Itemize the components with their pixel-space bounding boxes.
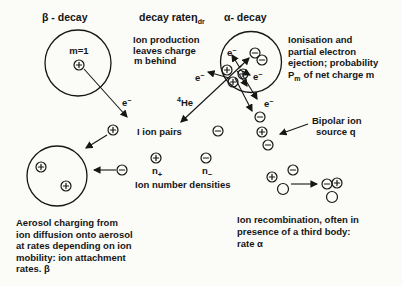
alpha-decay-header: α- decay (224, 11, 267, 23)
recombination-note-line2: presence of a third body: (237, 226, 351, 237)
positive-ion-icon (267, 172, 277, 182)
decay-ionization-diagram: β - decay decay rate ηdr α- decay m=1 e−… (0, 0, 402, 286)
ion-production-note-line1: Ion production (133, 34, 200, 45)
beta-decay-header: β - decay (42, 11, 88, 23)
alpha-nucleus-circle (221, 32, 282, 93)
ion-number-densities-label: Ion number densities (135, 179, 231, 190)
helium-4-label: 4He (177, 96, 193, 108)
electron-label: e− (253, 71, 262, 83)
aerosol-note-line2: ion diffusion onto aerosol (16, 229, 133, 240)
bipolar-ion-source-label-line2: source q (316, 126, 356, 137)
bipolar-source-pointer-arrow (280, 124, 308, 134)
charge-state-label: m=1 (69, 45, 89, 56)
positive-ion-icon (36, 162, 46, 172)
negative-ion-icon (263, 140, 273, 150)
recombination-note-line3: rate α (237, 238, 263, 249)
negative-ion-icon (201, 153, 211, 163)
ion-production-note-line3: m behind (134, 55, 176, 66)
ionisation-note-line3: ejection; probability (288, 57, 379, 68)
positive-ion-icon (222, 65, 232, 75)
negative-ion-icon (255, 112, 265, 122)
decay-rate-label: decay rate (139, 11, 191, 23)
aerosol-note-line1: Aerosol charging from (16, 217, 118, 228)
ion-pairs-label: I ion pairs (137, 126, 182, 137)
electron-label: e− (195, 72, 204, 84)
ejected-electron-arrow-upleft (232, 55, 240, 68)
positive-ion-icon (61, 181, 71, 191)
ionisation-note-line4: Pmof net charge m (288, 69, 374, 82)
electron-label: e− (227, 47, 236, 59)
neutral-particle-icon (278, 184, 289, 195)
negative-ion-icon (117, 165, 127, 175)
recombination-note-line1: Ion recombination, often in (237, 214, 359, 225)
bipolar-ion-source-label-line1: Bipolar ion (312, 115, 362, 126)
positive-ion-icon (151, 153, 161, 163)
n-minus-label: n− (202, 165, 213, 179)
scanned-figure-page: β - decay decay rate ηdr α- decay m=1 e−… (0, 0, 402, 286)
neutral-particle-icon (327, 192, 338, 203)
ionisation-note-line1: Ionisation and (288, 34, 353, 45)
positive-ion-attachment-arrow (86, 135, 107, 148)
negative-ion-icon (257, 55, 267, 65)
beta-nucleus-circle (45, 30, 111, 96)
ionisation-note-line2: partial electron (288, 46, 356, 57)
electron-label: e− (122, 97, 131, 109)
decay-rate-symbol: ηdr (191, 11, 205, 25)
positive-ion-icon (74, 60, 84, 70)
aerosol-note-line4: mobility: ion attachment (16, 252, 127, 263)
n-plus-label: n+ (152, 165, 163, 179)
positive-ion-icon (257, 127, 267, 137)
aerosol-note-line3: at rates depending on ion (16, 240, 132, 251)
electron-label: e− (264, 98, 273, 110)
positive-ion-icon (108, 125, 118, 135)
ejected-electron-arrow-downright2 (235, 78, 252, 111)
negative-ion-icon (322, 179, 332, 189)
positive-ion-icon (332, 178, 342, 188)
aerosol-note-line5: rates. β (16, 263, 50, 274)
aerosol-particle-circle (27, 146, 87, 206)
negative-ion-icon (213, 126, 223, 136)
negative-ion-icon (288, 165, 298, 175)
